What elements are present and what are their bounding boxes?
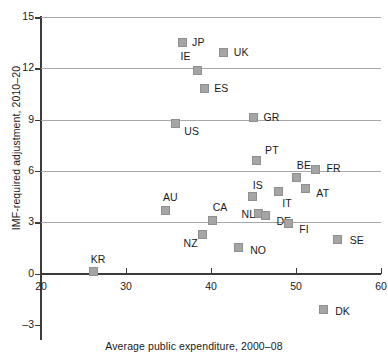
x-tick-mark-60 bbox=[381, 268, 382, 274]
data-point-kr bbox=[89, 267, 98, 276]
x-tick-label-60: 60 bbox=[366, 280, 388, 292]
data-point-se bbox=[333, 235, 342, 244]
x-tick-mark-50 bbox=[296, 268, 297, 274]
x-tick-label-50: 50 bbox=[281, 280, 311, 292]
point-label-uk: UK bbox=[234, 46, 249, 58]
data-point-nz bbox=[198, 230, 207, 239]
y-tick-mark-9 bbox=[35, 120, 40, 122]
point-label-jp: JP bbox=[192, 36, 204, 48]
data-point-de bbox=[261, 211, 270, 220]
data-point-ca bbox=[208, 216, 217, 225]
x-tick-label-20: 20 bbox=[26, 280, 56, 292]
point-label-it: IT bbox=[282, 197, 292, 209]
x-axis-title: Average public expenditure, 2000–08 bbox=[0, 340, 388, 352]
data-point-it bbox=[274, 187, 283, 196]
point-label-ie: IE bbox=[180, 50, 190, 62]
y-tick-mark-0 bbox=[35, 274, 40, 276]
point-label-pt: PT bbox=[265, 144, 279, 156]
point-label-nz: NZ bbox=[184, 237, 198, 249]
point-label-gr: GR bbox=[264, 111, 280, 123]
gridline-y-15 bbox=[41, 17, 381, 18]
point-label-es: ES bbox=[214, 82, 228, 94]
data-point-fi bbox=[284, 219, 293, 228]
y-tick-label-0: 0 bbox=[6, 267, 34, 279]
point-label-au: AU bbox=[163, 191, 178, 203]
data-point-pt bbox=[252, 156, 261, 165]
data-point-ie bbox=[193, 66, 202, 75]
point-label-se: SE bbox=[350, 234, 364, 246]
point-label-us: US bbox=[184, 125, 199, 137]
gridline-y-12 bbox=[41, 68, 381, 69]
point-label-fi: FI bbox=[299, 223, 309, 235]
data-point-be bbox=[292, 173, 301, 182]
data-point-is bbox=[248, 192, 257, 201]
y-tick-label-9: 9 bbox=[6, 113, 34, 125]
x-tick-label-40: 40 bbox=[196, 280, 226, 292]
y-tick-label-6: 6 bbox=[6, 164, 34, 176]
x-tick-mark-40 bbox=[211, 268, 212, 274]
data-point-uk bbox=[219, 48, 228, 57]
point-label-nl: NL bbox=[242, 208, 256, 220]
y-tick-label--3: –3 bbox=[6, 318, 34, 330]
point-label-is: IS bbox=[253, 179, 263, 191]
data-point-no bbox=[234, 243, 243, 252]
y-tick-mark-15 bbox=[35, 17, 40, 19]
y-tick-label-3: 3 bbox=[6, 215, 34, 227]
scatter-chart: IMF-required adjustment, 2010–20 Average… bbox=[0, 0, 388, 359]
x-tick-mark-30 bbox=[126, 268, 127, 274]
x-tick-label-30: 30 bbox=[111, 280, 141, 292]
data-point-es bbox=[200, 84, 209, 93]
data-point-jp bbox=[178, 38, 187, 47]
y-tick-mark-6 bbox=[35, 171, 40, 173]
data-point-dk bbox=[319, 305, 328, 314]
point-label-dk: DK bbox=[335, 305, 350, 317]
data-point-us bbox=[171, 119, 180, 128]
point-label-kr: KR bbox=[91, 253, 106, 265]
data-point-at bbox=[301, 184, 310, 193]
data-point-fr bbox=[311, 165, 320, 174]
y-tick-label-12: 12 bbox=[6, 61, 34, 73]
gridline-y-9 bbox=[41, 120, 381, 121]
point-label-ca: CA bbox=[213, 201, 228, 213]
point-label-fr: FR bbox=[327, 162, 341, 174]
point-label-no: NO bbox=[250, 244, 266, 256]
y-tick-label-15: 15 bbox=[6, 10, 34, 22]
point-label-at: AT bbox=[316, 187, 329, 199]
data-point-gr bbox=[249, 113, 258, 122]
y-tick-mark-12 bbox=[35, 68, 40, 70]
point-label-be: BE bbox=[297, 159, 311, 171]
data-point-au bbox=[161, 206, 170, 215]
y-tick-mark--3 bbox=[35, 325, 40, 327]
y-tick-mark-3 bbox=[35, 222, 40, 224]
